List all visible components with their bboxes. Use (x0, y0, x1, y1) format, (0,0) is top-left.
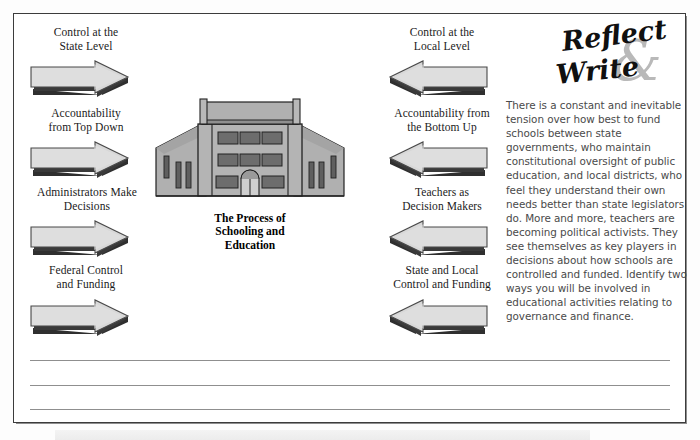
right-label-2: Accountability from the Bottom Up (366, 107, 518, 134)
arrow-right-2 (27, 139, 135, 179)
arrow-right-icon (27, 218, 135, 258)
left-label-4: Federal Control and Funding (14, 264, 158, 291)
arrow-left-icon (383, 58, 491, 98)
arrow-left-2 (383, 139, 491, 179)
writing-line-1 (30, 360, 670, 361)
right-label-4: State and Local Control and Funding (362, 264, 522, 291)
arrow-left-icon (383, 139, 491, 179)
school-building-icon (150, 96, 350, 211)
bottom-caption-strip (55, 430, 590, 440)
arrow-right-4 (27, 297, 135, 337)
arrow-left-3 (383, 218, 491, 258)
right-label-3: Teachers as Decision Makers (372, 186, 512, 213)
figure-caption: The Process of Schooling and Education (180, 198, 320, 252)
left-label-3: Administrators Make Decisions (8, 186, 166, 213)
reflect-write-logo: & Reflect Write (505, 18, 685, 100)
reflect-write-body-text: There is a constant and inevitable tensi… (506, 98, 692, 324)
arrow-left-icon (383, 218, 491, 258)
writing-line-3 (30, 409, 670, 410)
right-label-1: Control at the Local Level (372, 26, 512, 53)
left-label-1: Control at the State Level (16, 26, 156, 53)
writing-line-2 (30, 385, 670, 386)
arrow-right-icon (27, 58, 135, 98)
arrow-right-1 (27, 58, 135, 98)
arrow-right-3 (27, 218, 135, 258)
arrow-left-1 (383, 58, 491, 98)
arrow-right-icon (27, 297, 135, 337)
left-label-2: Accountability from Top Down (12, 107, 160, 134)
arrow-left-4 (383, 297, 491, 337)
arrow-left-icon (383, 297, 491, 337)
arrow-right-icon (27, 139, 135, 179)
reflect-write-wordmark-icon: & Reflect Write (505, 18, 685, 96)
page-canvas: Control at the State Level Accountabilit… (0, 0, 700, 440)
